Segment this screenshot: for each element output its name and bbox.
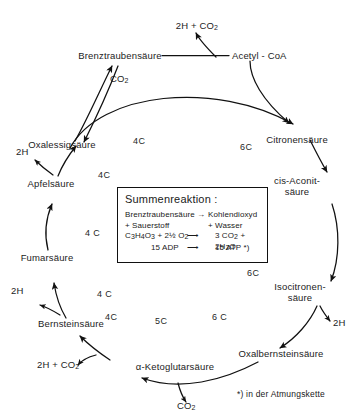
node-cis-aconitsaeure: cis-Aconit-säure	[262, 175, 332, 197]
byproduct-co2-left: CO2	[110, 73, 129, 86]
summenreaktion-line-4: 15 ADP ⟶ 15 ATP *)	[125, 243, 261, 253]
summenreaktion-product-1: Kohlendioxyd	[208, 210, 257, 220]
arrow-malate-to-2h	[35, 160, 53, 175]
arrow-isocitrate-to-2h	[320, 306, 330, 321]
arrow-glyph-1: →	[197, 210, 205, 220]
arrow-malate-to-oxaloacetate	[58, 146, 76, 176]
byproduct-2h-malate: 2H	[16, 146, 28, 157]
node-isocitronensaeure-l2: säure	[288, 292, 313, 303]
summenreaktion-atp: 15 ATP *)	[215, 243, 249, 253]
carbon-count-citrate: 6C	[240, 142, 252, 152]
node-isocitronensaeure: Isocitronen-säure	[265, 281, 335, 303]
arrow-ketoglutarate-to-succinate	[80, 336, 110, 360]
carbon-count-isocitrate: 6C	[247, 268, 259, 278]
node-bernsteinsaeure: Bernsteinsäure	[38, 318, 104, 329]
summenreaktion-line-3: C3H4O3 + 2½ O2 ⟶ 3 CO2 + 2H2O	[125, 231, 261, 242]
summenreaktion-box: Summenreaktion : Brenztraubensäure → Koh…	[117, 187, 268, 263]
node-fumarsaeure: Fumarsäure	[21, 252, 74, 263]
carbon-count-malate: 4C	[98, 170, 110, 180]
arrow-fumarate-to-malate	[46, 204, 52, 250]
node-cis-aconitsaeure-l1: cis-Aconit-	[274, 175, 320, 186]
node-citronensaeure: Citronensäure	[266, 134, 328, 145]
summenreaktion-reactant-1-text: Brenztraubensäure	[125, 210, 195, 219]
arrow-oxaloacetate-to-pyruvate	[75, 66, 112, 141]
summenreaktion-line-1: Brenztraubensäure → Kohlendioxyd	[125, 210, 261, 220]
arrow-glyph-3: ⟶	[187, 231, 198, 241]
carbon-count-succinate: 4C	[105, 312, 117, 322]
carbon-count-oxalosuccinate: 6 C	[212, 312, 227, 322]
summenreaktion-formula-left: C3H4O3 + 2½ O2	[125, 231, 189, 242]
node-acetyl-coa: Acetyl - CoA	[232, 50, 287, 61]
node-oxalbernsteinsaeure: Oxalbernsteinsäure	[238, 348, 323, 359]
arrow-pyruvate-to-2h-co2	[196, 33, 216, 57]
footnote-atmungskette: *) in der Atmungskette	[237, 389, 325, 399]
byproduct-2h-fumarate: 2H	[11, 285, 23, 296]
arrow-succinate-to-2h	[40, 305, 60, 315]
summenreaktion-title: Summenreaktion :	[125, 193, 261, 205]
summenreaktion-line-2: + Sauerstoff + Wasser	[125, 221, 261, 231]
node-ketoglutarsaeure: α-Ketoglutarsäure	[136, 361, 214, 372]
node-cis-aconitsaeure-l2: säure	[285, 186, 310, 197]
summenreaktion-adp: 15 ADP	[151, 243, 179, 253]
arrow-glyph-4: ⟶	[187, 243, 198, 253]
node-brenztraubensaeure: Brenztraubensäure	[78, 50, 161, 61]
summenreaktion-product-2: + Wasser	[208, 221, 243, 231]
summenreaktion-reactant-1: Brenztraubensäure →	[125, 210, 205, 220]
arrow-2h-co2-ketoglutarate	[78, 355, 96, 365]
byproduct-2h-isocitrate: 2H	[333, 317, 345, 328]
node-apfelsaeure: Apfelsäure	[28, 178, 75, 189]
carbon-count-oxaloacetate: 4C	[133, 136, 145, 146]
krebs-cycle-diagram: Brenztraubensäure Acetyl - CoA Citronens…	[0, 0, 363, 417]
arrow-acetylcoa-to-citrate	[250, 61, 289, 123]
byproduct-2h-co2-ketoglutarate: 2H + CO2	[37, 359, 79, 372]
carbon-count-fumarate: 4 C	[97, 289, 112, 299]
carbon-count-box-left: 4 C	[85, 228, 100, 238]
node-isocitronensaeure-l1: Isocitronen-	[274, 281, 325, 292]
arrow-cisaconitate-to-isocitrate	[331, 204, 338, 281]
arrow-isocitrate-to-oxalosuccinate	[280, 306, 317, 348]
node-oxalessigsaeure: Oxalessigsäure	[28, 139, 96, 150]
byproduct-2h-co2-top: 2H + CO2	[176, 20, 218, 33]
byproduct-co2-bottom: CO2	[177, 400, 196, 413]
carbon-count-ketoglutarate: 5C	[155, 316, 167, 326]
arrow-oxaloacetate-to-citrate	[70, 97, 293, 148]
summenreaktion-reactant-2: + Sauerstoff	[125, 221, 169, 231]
